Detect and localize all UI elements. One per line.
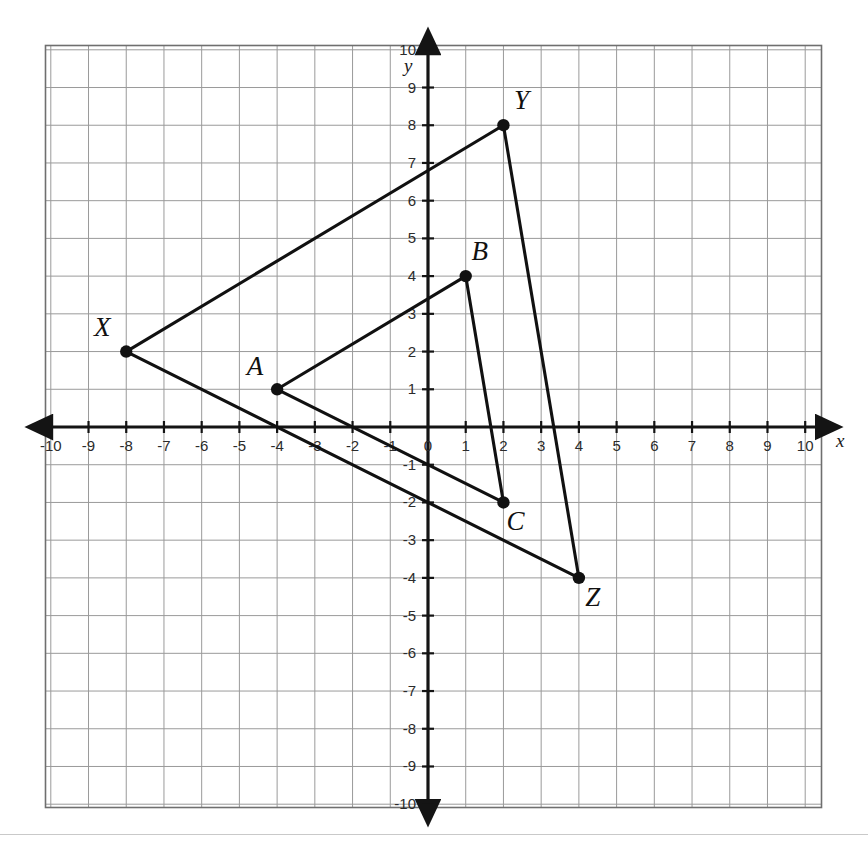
x-tick-label: -6	[195, 437, 208, 454]
y-tick-label: -5	[403, 607, 416, 624]
graph-canvas: -10-9-8-7-6-5-4-3-2-10123456789101098765…	[0, 0, 868, 845]
bottom-separator	[0, 834, 868, 835]
vertex-label-x: X	[93, 312, 112, 342]
x-tick-label: 10	[797, 437, 814, 454]
x-tick-label: 9	[763, 437, 771, 454]
y-tick-label: 8	[408, 116, 416, 133]
y-tick-label: 4	[408, 267, 416, 284]
y-tick-label: 5	[408, 229, 416, 246]
vertex-point	[271, 383, 283, 395]
x-tick-label: 5	[612, 437, 620, 454]
x-tick-label: 3	[537, 437, 545, 454]
vertex-label-c: C	[506, 506, 525, 536]
y-tick-label: -10	[394, 795, 416, 812]
y-tick-label: -4	[403, 569, 416, 586]
coordinate-plane-svg: -10-9-8-7-6-5-4-3-2-10123456789101098765…	[0, 0, 868, 845]
x-tick-label: 8	[726, 437, 734, 454]
vertex-label-y: Y	[514, 85, 532, 115]
x-tick-label: 6	[650, 437, 658, 454]
y-tick-label: 7	[408, 154, 416, 171]
x-tick-label: -2	[346, 437, 359, 454]
x-tick-label: -8	[120, 437, 133, 454]
x-tick-label: -4	[270, 437, 283, 454]
vertex-point	[460, 270, 472, 282]
x-tick-label: 0	[424, 437, 432, 454]
x-tick-label: 1	[462, 437, 470, 454]
x-tick-label: 4	[575, 437, 583, 454]
x-tick-label: 2	[499, 437, 507, 454]
vertex-label-z: Z	[585, 582, 601, 612]
x-tick-label: -9	[82, 437, 95, 454]
vertex-label-a: A	[245, 351, 264, 381]
vertex-point	[573, 572, 585, 584]
x-tick-label: -7	[157, 437, 170, 454]
y-tick-label: -8	[403, 720, 416, 737]
axes	[50, 52, 818, 802]
y-tick-label: -7	[403, 682, 416, 699]
y-tick-label: -3	[403, 531, 416, 548]
y-axis-label: y	[402, 55, 413, 76]
vertex-label-b: B	[471, 236, 488, 266]
vertex-point	[497, 119, 509, 131]
y-tick-label: 6	[408, 192, 416, 209]
y-tick-label: -9	[403, 757, 416, 774]
y-tick-label: 1	[408, 380, 416, 397]
y-tick-label: 2	[408, 343, 416, 360]
x-tick-label: 7	[688, 437, 696, 454]
x-tick-label: -5	[233, 437, 246, 454]
x-tick-label: -10	[40, 437, 62, 454]
vertex-point	[120, 345, 132, 357]
y-tick-label: -6	[403, 644, 416, 661]
y-tick-label: 9	[408, 79, 416, 96]
x-axis-label: x	[835, 430, 845, 451]
